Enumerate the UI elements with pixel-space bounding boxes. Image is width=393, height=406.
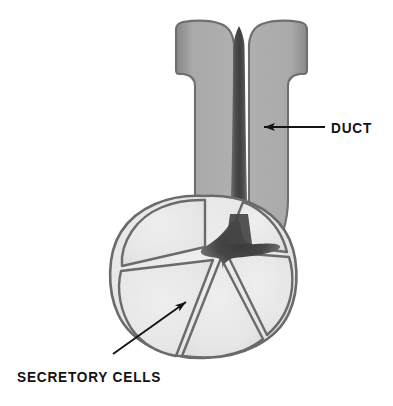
gland-illustration xyxy=(0,0,393,406)
acinus-texture xyxy=(110,196,296,358)
secretory-cells-label: SECRETORY CELLS xyxy=(17,368,161,386)
acinus-structure xyxy=(110,196,296,358)
gland-diagram-canvas: DUCT SECRETORY CELLS xyxy=(0,0,393,406)
duct-label: DUCT xyxy=(331,119,372,137)
